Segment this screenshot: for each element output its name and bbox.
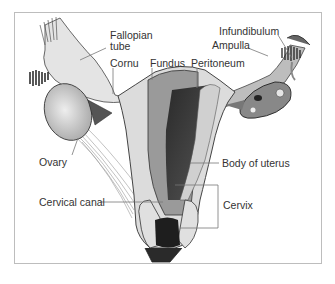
- label-cervix: Cervix: [223, 200, 253, 211]
- label-cornu: Cornu: [110, 58, 139, 69]
- label-fundus: Fundus: [150, 58, 185, 69]
- label-cervical-canal: Cervical canal: [39, 197, 105, 208]
- label-fallopian-tube-2: tube: [110, 41, 130, 52]
- label-body-of-uterus: Body of uterus: [222, 158, 290, 169]
- label-ovary: Ovary: [39, 157, 67, 168]
- left-fimbriae: [30, 70, 48, 86]
- label-peritoneum: Peritoneum: [191, 58, 245, 69]
- label-ampulla: Ampulla: [212, 40, 250, 51]
- uterus-illustration: [0, 0, 335, 284]
- right-fimbriae: [282, 46, 300, 61]
- label-infundibulum: Infundibulum: [219, 26, 279, 37]
